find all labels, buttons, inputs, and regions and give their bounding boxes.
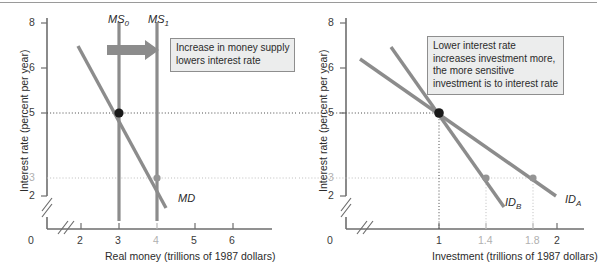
callout-line-1: Lower interest rate (433, 40, 558, 53)
curve-label-md: MD (178, 192, 195, 204)
callout-money-supply: Increase in money supply lowers interest… (170, 38, 295, 72)
curve-label-id-a: IDA (565, 193, 581, 208)
equilibrium-point-initial (434, 108, 444, 118)
callout-line-1: Increase in money supply (176, 42, 289, 55)
ms1-subscript: 1 (165, 19, 169, 28)
curve-label-ms1: MS1 (148, 13, 169, 28)
investment-point-a (529, 174, 536, 181)
ytick-label-8: 8 (29, 16, 35, 28)
xtick-label-6: 6 (229, 234, 235, 246)
callout-line-3: the more sensitive (433, 65, 558, 78)
y-axis-title: Interest rate (percent per year) (317, 50, 329, 192)
equilibrium-point-new (153, 174, 160, 181)
ytick-label-8: 8 (328, 16, 334, 28)
callout-line-4: investment is to interest rate (433, 78, 558, 91)
investment-point-b (482, 174, 489, 181)
xtick-label-2: 2 (77, 234, 83, 246)
y-axis-title: Interest rate (percent per year) (18, 50, 30, 192)
ms1-text: MS (148, 13, 165, 25)
money-supply-shift-arrow (107, 40, 159, 60)
ida-text: ID (565, 193, 576, 205)
ms0-subscript: 0 (125, 19, 129, 28)
xtick-label-2: 2 (554, 234, 560, 246)
origin-label: 0 (28, 234, 34, 246)
ms0-text: MS (108, 13, 125, 25)
curve-md (78, 46, 166, 208)
idb-text: ID (505, 196, 516, 208)
panel-money-market: 8 6 5 3 2 0 2 3 4 5 6 Real money (trilli… (0, 0, 298, 272)
origin-label: 0 (327, 234, 333, 246)
y-axis-break-icon (42, 198, 52, 217)
curve-label-id-b: IDB (505, 196, 521, 211)
xtick-label-5: 5 (191, 234, 197, 246)
xtick-label-1p4: 1.4 (478, 234, 493, 246)
equilibrium-point-initial (114, 108, 123, 117)
curve-label-ms0: MS0 (108, 13, 129, 28)
xtick-label-1p8: 1.8 (525, 234, 540, 246)
ida-subscript: A (576, 199, 581, 208)
xtick-label-1: 1 (436, 234, 442, 246)
idb-subscript: B (516, 202, 521, 211)
callout-line-2: lowers interest rate (176, 55, 289, 68)
callout-investment-demand: Lower interest rate increases investment… (427, 36, 564, 95)
panel-investment-demand: 8 6 5 3 2 0 1 1.4 1.8 2 Investment (tril… (299, 0, 597, 272)
x-axis-title: Investment (trillions of 1987 dollars) (432, 250, 598, 262)
xtick-label-4: 4 (153, 234, 159, 246)
x-axis-title: Real money (trillions of 1987 dollars) (105, 250, 275, 262)
xtick-label-3: 3 (115, 234, 121, 246)
callout-line-2: increases investment more, (433, 53, 558, 66)
x-axis-break-icon (58, 221, 74, 234)
x-axis-break-icon (357, 221, 373, 234)
y-axis-break-icon (341, 198, 351, 217)
